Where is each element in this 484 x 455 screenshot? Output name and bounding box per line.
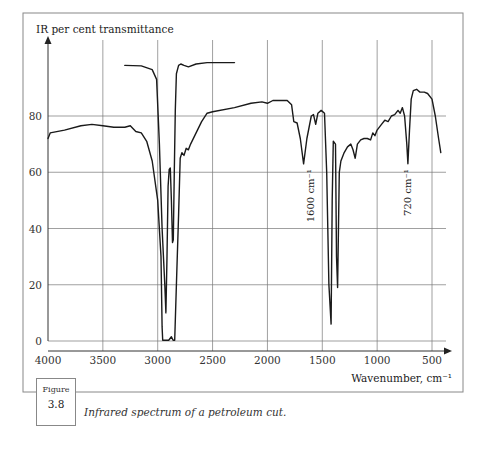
peak-annotation: 1600 cm⁻¹ xyxy=(305,169,316,222)
x-tick-label: 2500 xyxy=(199,354,226,366)
chart-frame xyxy=(23,13,463,392)
x-axis-arrow-icon xyxy=(444,348,452,355)
x-tick-label: 4000 xyxy=(35,354,62,366)
peak-annotations: 1600 cm⁻¹720 cm⁻¹ xyxy=(305,169,413,222)
x-tick-label: 1500 xyxy=(309,354,336,366)
x-tick-labels: 4000350030002500200015001000500 xyxy=(35,354,442,366)
figure-number-box: Figure 3.8 xyxy=(36,378,76,426)
x-axis-label: Wavenumber, cm⁻¹ xyxy=(351,372,452,384)
figure-caption: Infrared spectrum of a petroleum cut. xyxy=(84,406,286,418)
y-tick-label: 80 xyxy=(29,110,42,122)
grid-lines xyxy=(48,40,446,351)
figure-word: Figure xyxy=(37,385,75,394)
y-tick-label: 0 xyxy=(35,335,42,347)
x-tick-label: 2000 xyxy=(254,354,281,366)
x-tick-label: 1000 xyxy=(364,354,391,366)
y-tick-label: 20 xyxy=(29,279,42,291)
y-tick-labels: 020406080 xyxy=(29,110,42,347)
axes xyxy=(45,36,453,355)
y-axis-arrow-icon xyxy=(45,36,52,44)
x-tick-label: 3500 xyxy=(89,354,116,366)
figure-number: 3.8 xyxy=(37,398,75,410)
x-tick-label: 500 xyxy=(422,354,442,366)
peak-annotation: 720 cm⁻¹ xyxy=(402,169,413,216)
y-axis-label: IR per cent transmittance xyxy=(36,23,174,35)
spectrum-series xyxy=(48,63,441,341)
spectrum-line-main xyxy=(48,89,441,340)
x-tick-label: 3000 xyxy=(144,354,171,366)
y-tick-label: 60 xyxy=(29,166,42,178)
y-tick-label: 40 xyxy=(29,223,42,235)
